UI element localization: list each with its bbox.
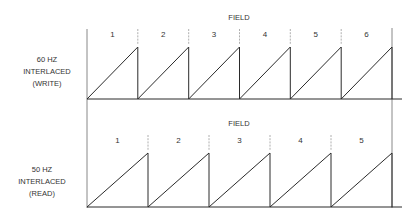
bottom-field-numbers: 12345 (115, 136, 364, 145)
field-number: 3 (212, 30, 217, 39)
top-field-numbers: 123456 (110, 30, 369, 39)
sawtooth-timing-diagram: FIELD 60 HZ INTERLACED (WRITE) 123456 FI… (0, 0, 420, 219)
field-number: 2 (161, 30, 166, 39)
top-side-label-line2: INTERLACED (23, 67, 71, 76)
top-field-dividers (138, 29, 341, 45)
field-number: 1 (110, 30, 115, 39)
bottom-side-label-line1: 50 HZ (32, 165, 53, 174)
field-number: 3 (237, 136, 242, 145)
read-50hz-section: FIELD 50 HZ INTERLACED (READ) 12345 (18, 119, 402, 207)
bottom-sawtooth-waveform (87, 153, 392, 207)
field-number: 2 (176, 136, 181, 145)
top-side-label-line3: (WRITE) (32, 79, 62, 88)
field-number: 1 (115, 136, 120, 145)
field-number: 5 (314, 30, 319, 39)
field-number: 6 (364, 30, 369, 39)
bottom-side-label-line2: INTERLACED (18, 177, 66, 186)
top-field-title: FIELD (228, 13, 250, 22)
field-number: 4 (263, 30, 268, 39)
bottom-field-title: FIELD (228, 119, 250, 128)
field-number: 4 (298, 136, 303, 145)
field-number: 5 (359, 136, 364, 145)
bottom-side-label-line3: (READ) (29, 189, 55, 198)
write-60hz-section: FIELD 60 HZ INTERLACED (WRITE) 123456 (23, 13, 402, 99)
top-side-label-line1: 60 HZ (37, 55, 58, 64)
top-sawtooth-waveform (87, 47, 392, 99)
